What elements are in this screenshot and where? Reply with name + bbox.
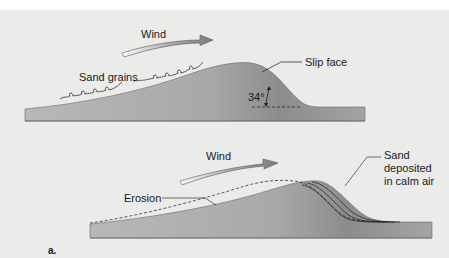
sand-grains-label: Sand grains	[79, 71, 138, 83]
top-wind-label: Wind	[141, 28, 166, 40]
bottom-dune-diagram: Wind Erosion Sand deposited in calm air	[90, 149, 434, 238]
deposit-label-line1: Sand	[384, 149, 410, 161]
top-dune-diagram: Wind Sand grains Slip face 34°	[25, 28, 365, 121]
bottom-dune-shape	[90, 181, 432, 238]
dune-diagram: Wind Sand grains Slip face 34°	[0, 0, 449, 258]
deposit-label-line3: in calm air	[384, 175, 434, 187]
top-dune-shape	[25, 63, 365, 121]
angle-label: 34°	[248, 91, 265, 103]
bottom-wind-arrow	[180, 159, 278, 185]
deposit-label-line2: deposited	[384, 162, 432, 174]
erosion-leader-line	[162, 198, 216, 205]
panel-label: a.	[48, 245, 57, 256]
slip-face-label: Slip face	[305, 56, 347, 68]
top-wind-arrow	[122, 35, 213, 57]
deposit-leader-line	[345, 157, 381, 186]
bottom-wind-label: Wind	[206, 150, 231, 162]
erosion-label: Erosion	[124, 192, 161, 204]
